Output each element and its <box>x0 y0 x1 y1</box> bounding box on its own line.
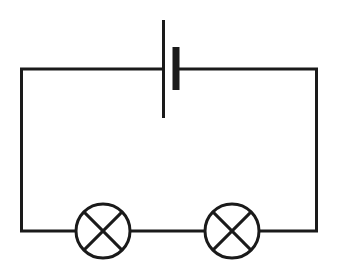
battery-symbol <box>164 20 180 118</box>
wire-group <box>20 69 318 231</box>
circuit-diagram <box>0 0 341 277</box>
lamp-2-symbol <box>205 204 259 258</box>
lamp-1-symbol <box>76 204 130 258</box>
battery-short-plate-icon <box>173 47 180 90</box>
circuit-schematic-svg <box>0 0 341 277</box>
